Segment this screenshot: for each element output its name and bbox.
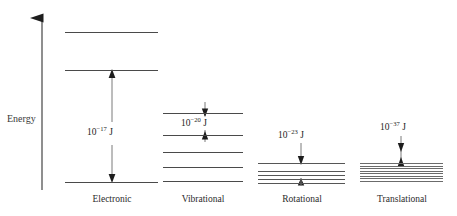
translational-level-3 [360,178,443,179]
electronic-spacing-arrow [109,69,116,183]
rotational-level-2 [258,179,345,180]
electronic-spacing-exponent: −17 [97,125,107,132]
rotational-spacing-label: 10−23 J [277,131,305,141]
translational-level-2 [360,181,443,182]
energy-axis-label: Energy [7,113,36,124]
vibrational-level-2 [163,167,243,168]
vibrational-level-4 [163,135,243,136]
column-label-rotational: Rotational [256,194,348,204]
rotational-level-4 [258,171,345,172]
electronic-spacing-mantissa: 10 [87,127,97,137]
translational-level-4 [360,176,443,177]
vibrational-level-1 [163,181,243,182]
vibrational-spacing-mantissa: 10 [181,118,191,128]
column-label-translational: Translational [356,194,448,204]
translational-level-6 [360,171,443,172]
translational-spacing-label: 10−37 J [379,123,407,133]
translational-level-7 [360,168,443,169]
translational-spacing-unit: J [402,122,406,132]
electronic-spacing-unit: J [109,127,113,137]
electronic-level-ground [65,182,158,183]
translational-spacing-arrow [398,136,404,166]
column-label-vibrational: Vibrational [157,194,249,204]
electronic-spacing-label: 10−17 J [86,128,114,138]
vibrational-level-3 [163,152,243,153]
translational-spacing-exponent: −37 [390,120,400,127]
electronic-level-1 [65,70,158,71]
rotational-spacing-unit: J [300,130,304,140]
rotational-level-1 [258,183,345,184]
vibrational-spacing-label: 10−20 J [180,119,208,129]
rotational-level-3 [258,175,345,176]
rotational-level-5 [258,163,345,164]
translational-spacing-mantissa: 10 [380,122,390,132]
column-label-electronic: Electronic [66,194,158,204]
vibrational-spacing-unit: J [203,118,207,128]
translational-level-band [360,163,443,183]
translational-level-5 [360,173,443,174]
electronic-level-2 [65,32,158,33]
translational-level-8 [360,166,443,167]
translational-level-9 [360,163,443,164]
rotational-spacing-mantissa: 10 [278,130,288,140]
vibrational-spacing-exponent: −20 [191,116,201,123]
rotational-spacing-exponent: −23 [288,128,298,135]
vibrational-level-5 [163,113,243,114]
energy-level-diagram: Energy 10−17 J 10−20 J 10−23 J 10−37 J E… [0,0,457,216]
